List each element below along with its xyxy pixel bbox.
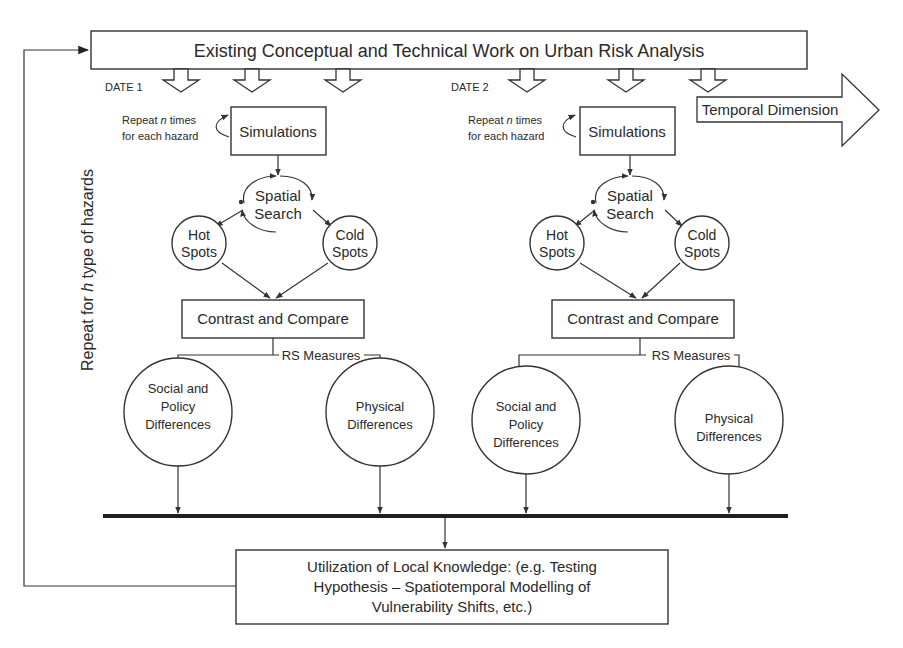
- svg-text:Hypothesis – Spatiotemporal Mo: Hypothesis – Spatiotemporal Modelling of: [314, 578, 592, 595]
- cold-spots-node: [323, 216, 377, 270]
- down-arrow-icon: [163, 69, 199, 92]
- svg-text:Contrast and Compare: Contrast and Compare: [197, 310, 349, 327]
- date-label: DATE 2: [451, 81, 489, 93]
- svg-text:Differences: Differences: [347, 417, 413, 432]
- svg-text:Contrast and Compare: Contrast and Compare: [567, 310, 719, 327]
- svg-text:Search: Search: [606, 205, 654, 222]
- down-arrow-icon: [509, 69, 545, 92]
- svg-text:Spatial: Spatial: [255, 187, 301, 204]
- svg-text:Simulations: Simulations: [588, 123, 666, 140]
- hot-spots-node: [172, 216, 226, 270]
- svg-text:Hot: Hot: [546, 227, 568, 243]
- svg-text:Spots: Spots: [684, 244, 720, 260]
- down-arrow-icon: [690, 69, 726, 92]
- temporal-dimension-arrow: Temporal Dimension: [697, 74, 879, 146]
- temporal-dimension-label: Temporal Dimension: [702, 101, 839, 118]
- repeat-note-line2: for each hazard: [468, 130, 544, 142]
- svg-text:Differences: Differences: [145, 417, 211, 432]
- repeat-note-line2: for each hazard: [122, 130, 198, 142]
- svg-text:Social and: Social and: [148, 381, 209, 396]
- svg-text:Spots: Spots: [332, 244, 368, 260]
- down-arrow-icon: [325, 69, 361, 92]
- svg-text:Policy: Policy: [509, 417, 544, 432]
- simulations-label: Simulations: [239, 123, 317, 140]
- panel-date-1: DATE 1 Repeat n times for each hazard Si…: [105, 81, 434, 513]
- repeat-note-line1: Repeat n times: [468, 114, 542, 126]
- svg-text:Policy: Policy: [161, 399, 196, 414]
- svg-text:Differences: Differences: [493, 435, 559, 450]
- cold-spots-node: [675, 216, 729, 270]
- hollow-down-arrows: [163, 69, 726, 92]
- bottom-box: Utilization of Local Knowledge: (e.g. Te…: [236, 550, 668, 624]
- svg-text:Social and: Social and: [496, 399, 557, 414]
- hot-spots-node: [530, 216, 584, 270]
- svg-text:Physical: Physical: [705, 411, 754, 426]
- svg-text:Spots: Spots: [181, 244, 217, 260]
- merge-bar: [103, 514, 788, 518]
- svg-text:Spots: Spots: [539, 244, 575, 260]
- svg-text:Spatial: Spatial: [607, 187, 653, 204]
- repeat-note-line1: Repeat n times: [122, 114, 196, 126]
- rs-measures-label: RS Measures: [282, 348, 361, 363]
- svg-text:Hot: Hot: [188, 227, 210, 243]
- svg-text:Repeat for h type of hazards: Repeat for h type of hazards: [79, 169, 96, 371]
- svg-text:Physical: Physical: [356, 399, 405, 414]
- top-box: Existing Conceptual and Technical Work o…: [91, 31, 807, 69]
- top-box-label: Existing Conceptual and Technical Work o…: [194, 41, 705, 61]
- svg-text:Cold: Cold: [688, 227, 717, 243]
- svg-text:Differences: Differences: [696, 429, 762, 444]
- svg-text:Search: Search: [254, 205, 302, 222]
- svg-text:Vulnerability Shifts, etc.): Vulnerability Shifts, etc.): [372, 598, 532, 615]
- panel-date-2: DATE 2 Repeat n times for each hazard Si…: [451, 81, 783, 513]
- repeat-loop-icon: [216, 115, 229, 137]
- date-label: DATE 1: [105, 81, 143, 93]
- down-arrow-icon: [608, 69, 644, 92]
- down-arrow-icon: [234, 69, 270, 92]
- repeat-loop-icon: [563, 115, 576, 137]
- svg-text:Cold: Cold: [336, 227, 365, 243]
- flow-diagram: Existing Conceptual and Technical Work o…: [0, 0, 903, 648]
- svg-text:Utilization of Local Knowledge: Utilization of Local Knowledge: (e.g. Te…: [307, 558, 597, 575]
- side-label: Repeat for h type of hazards: [79, 169, 96, 371]
- rs-measures-label: RS Measures: [652, 348, 731, 363]
